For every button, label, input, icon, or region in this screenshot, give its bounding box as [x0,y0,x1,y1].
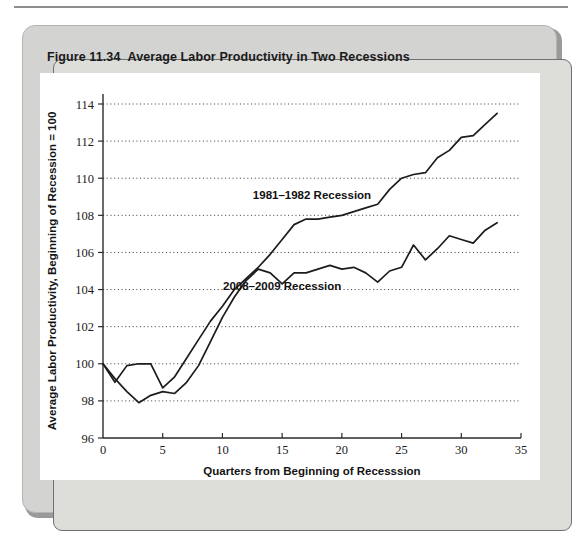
plot-card: 9698100102104106108110112114 05101520253… [40,73,540,480]
y-axis-title: Average Labor Productivity, Beginning of… [46,112,58,431]
x-tick-label: 0 [100,443,106,457]
x-tick-label: 10 [216,443,229,457]
y-tick-label: 98 [82,394,95,408]
x-tick-label: 30 [455,443,468,457]
y-tick-label: 110 [76,172,94,186]
x-axis-ticks: 05101520253035 [100,433,527,457]
series-label-1: 1981–1982 Recession [253,189,371,201]
x-tick-label: 5 [160,443,166,457]
series-line-1 [103,113,497,388]
series-annotations: 1981–1982 Recession2008–2009 Recession [223,189,371,292]
series-label-2: 2008–2009 Recession [223,280,341,292]
gridlines [103,104,521,401]
y-tick-label: 106 [75,246,94,260]
x-tick-label: 35 [515,443,528,457]
x-tick-label: 25 [395,443,408,457]
x-axis-title: Quarters from Beginning of Recesssion [203,465,420,477]
y-tick-label: 108 [75,209,94,223]
data-series [103,113,497,402]
page-top-rule [14,6,568,8]
series-line-2 [103,223,497,403]
y-tick-label: 100 [75,357,94,371]
line-chart: 9698100102104106108110112114 05101520253… [40,73,540,480]
y-tick-label: 112 [76,135,94,149]
y-tick-label: 96 [82,432,95,446]
page-root: Figure 11.34Average Labor Productivity i… [0,0,582,535]
y-tick-label: 102 [75,320,94,334]
axis-lines [103,94,521,438]
figure-title: Figure 11.34Average Labor Productivity i… [47,50,517,64]
figure-number: Figure 11.34 [47,50,120,64]
y-tick-label: 114 [76,98,95,112]
x-tick-label: 15 [276,443,289,457]
y-tick-label: 104 [75,283,95,297]
y-axis-ticks: 9698100102104106108110112114 [75,98,103,446]
figure-title-text: Average Labor Productivity in Two Recess… [127,50,409,64]
x-tick-label: 20 [336,443,349,457]
